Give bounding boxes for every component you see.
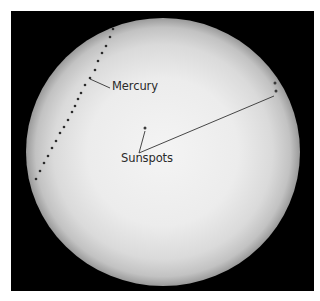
mercury-position-dot xyxy=(43,162,46,165)
mercury-position-dot xyxy=(51,147,54,150)
mercury-position-dot xyxy=(101,52,104,55)
mercury-position-dot xyxy=(67,119,70,122)
mercury-position-dot xyxy=(105,45,108,48)
mercury-position-dot xyxy=(109,36,112,39)
mercury-position-dot xyxy=(77,98,80,101)
mercury-label: Mercury xyxy=(112,81,158,93)
mercury-position-dot xyxy=(112,28,115,31)
mercury-position-dot xyxy=(55,140,58,143)
mercury-position-dot xyxy=(97,60,100,63)
mercury-position-dot xyxy=(63,126,66,129)
mercury-position-dot xyxy=(59,132,62,135)
mercury-position-dot xyxy=(80,92,83,95)
mercury-position-dot xyxy=(74,105,77,108)
mercury-position-dot xyxy=(35,178,38,181)
sunspot xyxy=(275,90,278,93)
mercury-position-dot xyxy=(84,84,87,87)
mercury-position-dot xyxy=(39,170,42,173)
mercury-position-dot xyxy=(47,155,50,158)
sunspot xyxy=(144,127,147,130)
mercury-position-dot xyxy=(89,77,92,80)
sunspots-label: Sunspots xyxy=(121,153,173,165)
sunspot xyxy=(274,82,277,85)
mercury-position-dot xyxy=(94,69,97,72)
mercury-position-dot xyxy=(71,111,74,114)
